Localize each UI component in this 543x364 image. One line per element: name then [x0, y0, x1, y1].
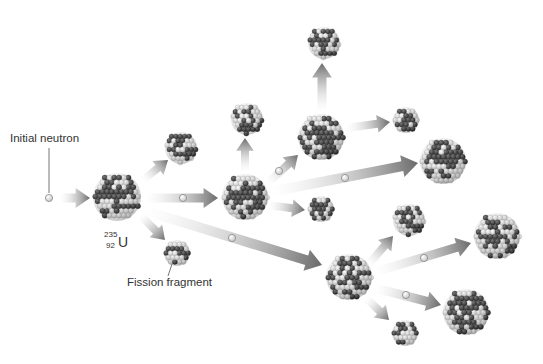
nucleus — [393, 107, 420, 133]
initial-neutron-label: Initial neutron — [10, 132, 79, 144]
uranium-235-label: 235 92 U — [104, 230, 134, 256]
arrow — [236, 138, 254, 172]
fission-fragment-leader-line — [168, 264, 172, 276]
neutron — [228, 234, 235, 241]
nucleus — [308, 196, 335, 222]
isotope-mass-number: 235 — [104, 230, 117, 239]
arrow — [268, 200, 306, 217]
nucleus — [420, 138, 468, 184]
isotope-symbol: U — [118, 234, 128, 250]
diagram-canvas — [0, 0, 543, 364]
fission-fragment-label: Fission fragment — [127, 276, 212, 288]
arrow — [141, 160, 169, 183]
nucleus — [93, 173, 141, 221]
nucleus — [474, 213, 522, 259]
nucleus — [298, 114, 346, 160]
nucleus — [222, 174, 270, 220]
nucleus — [443, 289, 491, 335]
arrow — [363, 295, 389, 320]
neutron — [275, 167, 282, 174]
neutron — [420, 254, 427, 261]
nucleus — [165, 132, 198, 165]
neutron — [402, 291, 409, 298]
arrow — [346, 115, 391, 132]
neutron — [179, 194, 186, 201]
arrow — [312, 63, 332, 112]
neutron — [45, 194, 52, 201]
nucleus — [231, 103, 264, 136]
isotope-atomic-number: 92 — [106, 241, 115, 250]
arrow — [60, 188, 90, 208]
nucleus — [164, 240, 191, 266]
nucleus — [392, 320, 419, 346]
fission-chain-diagram: Initial neutron 235 92 U Fission fragmen… — [0, 0, 543, 364]
nucleus — [393, 204, 426, 237]
nucleus — [308, 27, 341, 60]
arrow — [365, 236, 393, 268]
neutron — [341, 174, 348, 181]
